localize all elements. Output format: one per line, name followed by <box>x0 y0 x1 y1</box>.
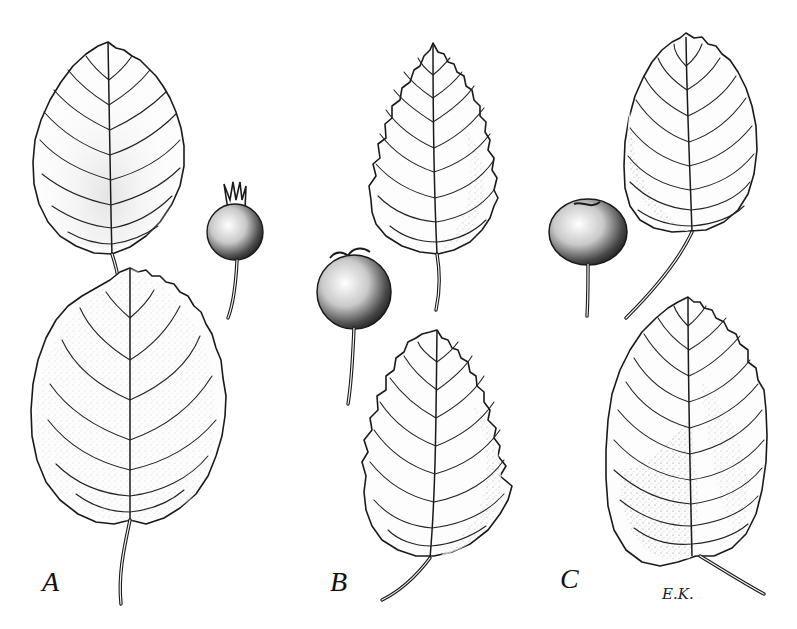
leaf-c-lower <box>606 297 767 566</box>
leaf-b-lower <box>362 330 512 558</box>
botanical-plate: A B C E.K. <box>0 0 797 629</box>
fruit-a <box>207 182 263 318</box>
leaf-b-upper <box>369 43 498 254</box>
panel-label-a: A <box>42 566 59 598</box>
panel-b <box>317 43 512 600</box>
leaf-b-lower-petiole <box>382 558 430 600</box>
panel-label-c: C <box>560 563 579 595</box>
leaf-a-lower <box>31 268 226 524</box>
fruit-b <box>317 249 391 404</box>
panel-label-b: B <box>330 566 347 598</box>
panel-c <box>549 33 767 594</box>
leaf-c-upper <box>624 33 757 232</box>
panel-a <box>31 42 263 604</box>
leaf-a-upper <box>33 42 184 256</box>
fruit-c <box>549 199 627 316</box>
plate-drawing <box>0 0 797 629</box>
artist-signature: E.K. <box>662 585 694 603</box>
